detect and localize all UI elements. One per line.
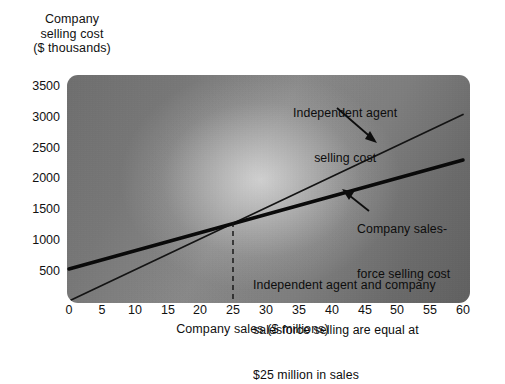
- independent-agent-label-line-2: selling cost: [293, 151, 397, 166]
- x-tick-label-45: 45: [352, 303, 378, 317]
- y-tick-label-2500: 2500: [14, 141, 60, 155]
- company-salesforce-label-line-1: Company sales-: [357, 222, 450, 237]
- y-tick-label-3000: 3000: [14, 110, 60, 124]
- breakeven-note-line-1: Independent agent and company: [253, 278, 436, 293]
- x-tick-label-30: 30: [253, 303, 279, 317]
- y-axis-title-line-1: Company: [8, 12, 136, 27]
- y-axis-title-line-2: selling cost: [8, 27, 136, 42]
- x-tick-label-5: 5: [89, 303, 115, 317]
- x-tick-label-0: 0: [56, 303, 82, 317]
- y-tick-label-3500: 3500: [14, 79, 60, 93]
- independent-agent-label-line-1: Independent agent: [293, 106, 397, 121]
- y-tick-label-1500: 1500: [14, 202, 60, 216]
- y-tick-label-1000: 1000: [14, 233, 60, 247]
- x-tick-label-40: 40: [319, 303, 345, 317]
- x-axis-title: Company sales ($ millions): [0, 322, 505, 336]
- x-tick-label-25: 25: [220, 303, 246, 317]
- y-axis-title-line-3: ($ thousands): [8, 41, 136, 56]
- x-tick-label-35: 35: [286, 303, 312, 317]
- breakeven-note-line-3: $25 million in sales: [253, 368, 436, 383]
- y-tick-label-2000: 2000: [14, 171, 60, 185]
- x-tick-label-60: 60: [450, 303, 476, 317]
- x-tick-label-15: 15: [155, 303, 181, 317]
- x-tick-label-55: 55: [417, 303, 443, 317]
- x-tick-label-20: 20: [187, 303, 213, 317]
- y-axis-title: Company selling cost ($ thousands): [8, 12, 136, 56]
- independent-agent-label: Independent agent selling cost: [293, 76, 397, 196]
- y-tick-label-500: 500: [14, 264, 60, 278]
- x-tick-label-10: 10: [122, 303, 148, 317]
- x-tick-label-50: 50: [384, 303, 410, 317]
